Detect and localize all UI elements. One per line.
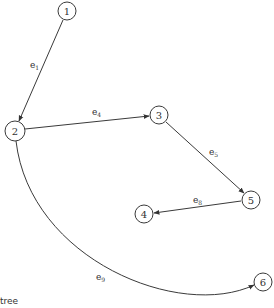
- svg-text:5: 5: [248, 195, 254, 206]
- edge-e9: [16, 141, 254, 295]
- node-2: 2: [5, 121, 25, 141]
- node-4: 4: [135, 205, 153, 223]
- edge-label-e9: e9: [96, 272, 105, 283]
- edge-e5: [166, 122, 244, 193]
- svg-text:2: 2: [12, 126, 18, 137]
- edge-e1: [19, 20, 63, 121]
- node-5: 5: [242, 191, 260, 209]
- node-3: 3: [150, 106, 168, 124]
- node-1: 1: [58, 2, 76, 20]
- edge-label-e4: e4: [92, 107, 101, 118]
- svg-text:1: 1: [64, 6, 70, 17]
- node-6: 6: [254, 273, 272, 291]
- svg-text:3: 3: [156, 110, 162, 121]
- edge-label-e1: e1: [30, 60, 39, 71]
- edge-label-e8: e8: [193, 195, 202, 206]
- edge-e4: [25, 116, 149, 129]
- svg-text:6: 6: [260, 277, 266, 288]
- graph-canvas: e1 e4 e5 e8 e9 1 2 3 4 5 6: [0, 0, 274, 308]
- caption: tree: [0, 296, 18, 306]
- svg-text:4: 4: [141, 209, 147, 220]
- edge-label-e5: e5: [209, 147, 218, 158]
